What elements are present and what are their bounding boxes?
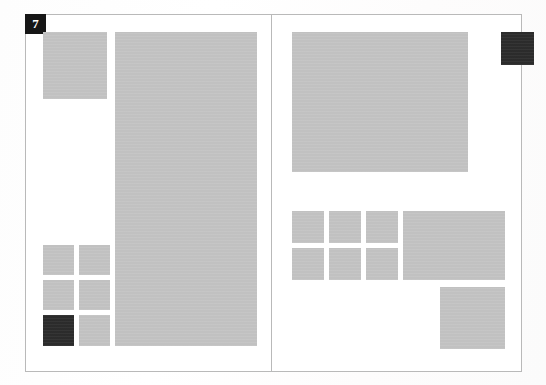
right-grid-r1c2 — [329, 211, 361, 243]
right-grid-r2c3 — [366, 248, 398, 280]
left-grid-r3c1 — [43, 315, 74, 346]
right-bottom-square — [440, 287, 505, 349]
left-grid-r2c2 — [79, 280, 110, 310]
left-grid-r1c1 — [43, 245, 74, 275]
right-hero-rect — [292, 32, 468, 172]
left-grid-r2c1 — [43, 280, 74, 310]
page-spread: 7 — [25, 14, 522, 372]
right-grid-r1c3 — [366, 211, 398, 243]
left-page: 7 — [26, 15, 271, 371]
scan-surface: 7 — [0, 0, 546, 385]
right-grid-r2c2 — [329, 248, 361, 280]
left-grid-r3c2 — [79, 315, 110, 346]
page-number-badge: 7 — [25, 14, 46, 34]
right-accent-square — [501, 32, 534, 65]
left-tall-column — [115, 32, 257, 346]
right-grid-r2c1 — [292, 248, 324, 280]
right-page — [272, 15, 521, 371]
left-grid-r1c2 — [79, 245, 110, 275]
right-grid-r1c1 — [292, 211, 324, 243]
left-top-square — [43, 32, 107, 99]
right-wide-rect — [403, 211, 505, 280]
